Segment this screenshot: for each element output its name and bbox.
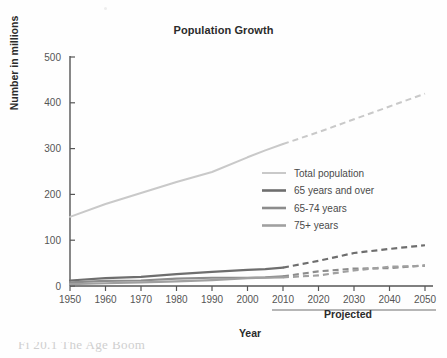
figure-root: Population Growth Number in millions 010…: [0, 0, 447, 358]
projected-label: Projected: [258, 308, 438, 320]
x-tick-label: 2040: [378, 294, 401, 305]
x-tick-label: 1970: [130, 294, 153, 305]
y-tick-label: 200: [44, 189, 61, 200]
series-line-solid: [70, 144, 283, 217]
legend-label: 65-74 years: [294, 203, 347, 214]
x-tick-label: 1960: [94, 294, 117, 305]
legend-label: 75+ years: [294, 220, 338, 231]
y-tick-label: 500: [44, 52, 61, 63]
series-line-projected: [283, 94, 425, 144]
x-tick-label: 2010: [272, 294, 295, 305]
y-tick-label: 400: [44, 97, 61, 108]
x-tick-label: 1990: [201, 294, 224, 305]
y-tick-label: 300: [44, 143, 61, 154]
figure-caption-strip: Fi 20.1 The Age Boom: [0, 342, 447, 358]
legend-label: 65 years and over: [294, 185, 375, 196]
x-tick-label: 2000: [236, 294, 259, 305]
x-axis-title: Year: [70, 327, 430, 339]
y-tick-label: 0: [55, 281, 61, 292]
chart-plot-area: 0100200300400500195019601970198019902000…: [0, 0, 447, 358]
figure-caption: Fi 20.1 The Age Boom: [18, 342, 145, 353]
series-line-projected: [283, 245, 425, 267]
x-tick-label: 1980: [165, 294, 188, 305]
legend-layer: Total population65 years and over65-74 y…: [262, 168, 375, 232]
x-tick-label: 2050: [414, 294, 437, 305]
x-tick-label: 2020: [307, 294, 330, 305]
x-tick-label: 2030: [343, 294, 366, 305]
y-tick-label: 100: [44, 235, 61, 246]
x-tick-label: 1950: [59, 294, 82, 305]
legend-label: Total population: [294, 168, 364, 179]
